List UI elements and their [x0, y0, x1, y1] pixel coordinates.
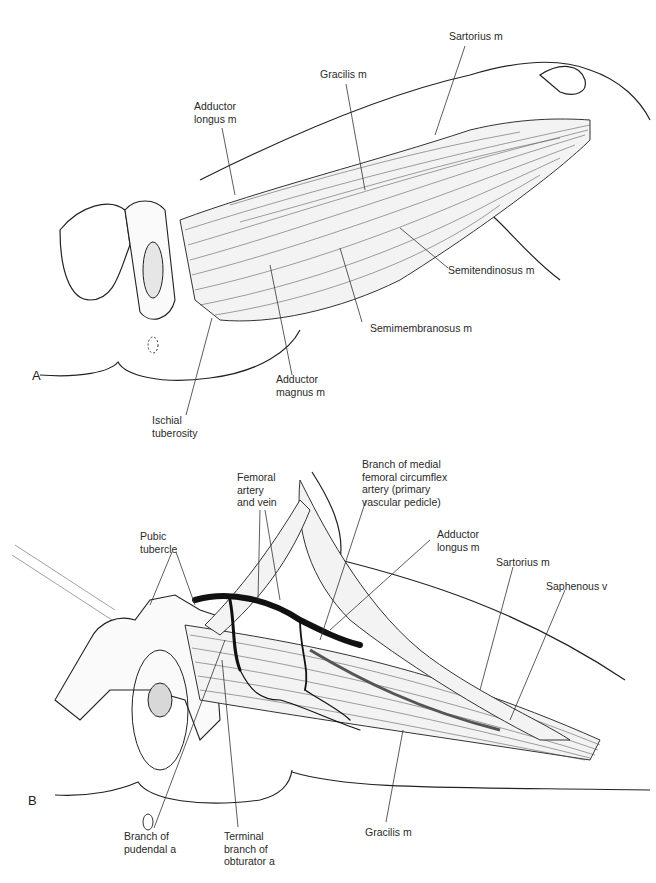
anus — [148, 337, 158, 353]
label-sartorius-a: Sartorius m — [449, 30, 503, 43]
panel-label-b: B — [28, 793, 37, 808]
buttock-outline-b — [55, 770, 292, 803]
label-adductor-longus-a: Adductor longus m — [194, 100, 237, 125]
label-adductor-magnus: Adductor magnus m — [276, 373, 325, 398]
patella-outline — [540, 66, 585, 94]
label-femoral-artery-vein: Femoral artery and vein — [237, 471, 277, 509]
label-obturator: Terminal branch of obturator a — [224, 830, 275, 868]
label-medial-femoral-circumflex: Branch of medial femoral circumflex arte… — [362, 458, 447, 508]
label-saphenous: Saphenous v — [546, 580, 607, 593]
leader-saphenous — [510, 590, 565, 720]
label-gracilis-a: Gracilis m — [320, 68, 367, 81]
adductor-muscle-group — [180, 119, 590, 321]
leader-sartorius-b — [480, 567, 513, 690]
leader-ischial-tuberosity — [186, 318, 212, 415]
leader-adductor-longus-a — [222, 128, 235, 195]
label-pubic-tubercle: Pubic tubercle — [140, 530, 177, 555]
leader-gracilis-b — [386, 730, 403, 822]
leader-sartorius-a — [435, 46, 465, 135]
label-pudendal: Branch of pudendal a — [124, 830, 176, 855]
vaginal-orifice-b — [148, 683, 172, 717]
panel-b-drawing — [12, 472, 650, 830]
buttock-outline — [40, 330, 300, 380]
label-semitendinosus: Semitendinosus m — [448, 264, 534, 277]
anatomical-illustration — [0, 0, 656, 883]
retracted-band-left — [15, 545, 115, 610]
label-ischial-tuberosity: Ischial tuberosity — [152, 414, 198, 439]
label-semimembranosus: Semimembranosus m — [370, 322, 472, 335]
perineum-left — [60, 204, 130, 300]
panel-label-a: A — [32, 368, 41, 383]
label-adductor-longus-b: Adductor longus m — [437, 528, 480, 553]
label-sartorius-b: Sartorius m — [496, 556, 550, 569]
thigh-lower-outline-b — [292, 772, 650, 790]
label-gracilis-b: Gracilis m — [365, 826, 412, 839]
vaginal-orifice — [143, 242, 163, 298]
anus-b — [143, 814, 153, 830]
panel-a-drawing — [40, 46, 650, 415]
